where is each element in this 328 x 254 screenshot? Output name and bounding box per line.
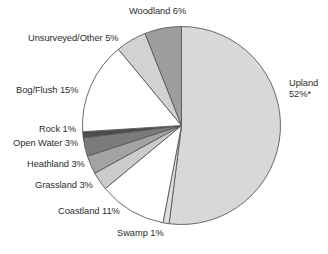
slice-label-unsurveyed-other: Unsurveyed/Other 5%: [28, 33, 119, 44]
slice-label-heathland: Heathland 3%: [27, 159, 85, 170]
pie-slices-group: [83, 27, 281, 225]
slice-label-coastland: Coastland 11%: [58, 206, 120, 217]
slice-label-swamp: Swamp 1%: [117, 228, 164, 239]
pie-slice-upland: [169, 27, 280, 225]
pie-chart-figure: Woodland 6% Unsurveyed/Other 5% Bog/Flus…: [0, 0, 328, 254]
slice-label-rock: Rock 1%: [39, 124, 76, 135]
slice-label-open-water: Open Water 3%: [13, 138, 78, 149]
slice-label-woodland: Woodland 6%: [129, 6, 186, 17]
slice-label-upland-name: Upland: [289, 78, 318, 89]
slice-label-upland-value: 52%*: [289, 89, 311, 100]
slice-label-grassland: Grassland 3%: [35, 180, 93, 191]
slice-label-bog-flush: Bog/Flush 15%: [16, 85, 78, 96]
